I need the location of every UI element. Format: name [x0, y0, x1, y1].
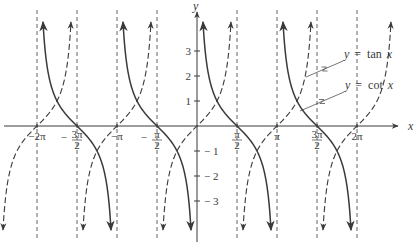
x-tick-label: −2π — [28, 130, 46, 142]
x-tick-label: −π — [111, 130, 123, 142]
y-tick-label: − 2 — [204, 170, 218, 182]
y-tick-label: 2 — [186, 70, 192, 82]
x-tick-label-denominator: 2 — [234, 139, 240, 151]
x-tick-label-denominator: 2 — [74, 139, 80, 151]
legend-label-cot: y=cotx — [344, 78, 394, 92]
leader-arrow-icon — [319, 100, 325, 104]
y-axis-label: y — [192, 0, 199, 13]
y-tick-label: 3 — [186, 45, 192, 57]
legend: y=tanxy=cotx — [300, 47, 394, 111]
legend-label-tan: y=tanx — [343, 47, 393, 61]
y-tick-label: 1 — [186, 95, 192, 107]
x-tick-label: 2π — [351, 130, 363, 142]
x-tick-label: π — [274, 130, 280, 142]
x-tick-label-sign: − — [141, 131, 147, 143]
x-tick-label-denominator: 2 — [154, 139, 160, 151]
trig-graph: xy −2π−3π2−π−π2π2π3π22π321− 1− 2− 3 y=ta… — [0, 0, 416, 247]
x-tick-label-sign: − — [61, 131, 67, 143]
y-tick-label: − 1 — [204, 145, 218, 157]
x-tick-label-denominator: 2 — [314, 139, 320, 151]
leader-arrow-icon — [322, 67, 328, 71]
y-tick-label: − 3 — [204, 195, 219, 207]
x-axis-label: x — [407, 119, 414, 133]
